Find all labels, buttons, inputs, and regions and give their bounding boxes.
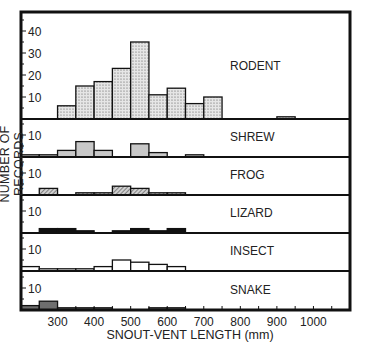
x-tick-label: 1000 [300,315,327,329]
y-tick-label: 40 [28,25,42,39]
y-tick-label: 10 [28,243,42,257]
bar [131,144,149,157]
x-tick-label: 500 [121,315,141,329]
bar [58,106,76,119]
panel-label: SNAKE [230,283,271,297]
plot-frame [21,12,350,310]
y-tick-label: 30 [28,47,42,61]
panels: 10203040RODENT10SHREW10FROG10LIZARD10INS… [21,12,350,310]
y-axis-label: NUMBER OF RECORDS [0,94,26,234]
x-tick-label: 600 [157,315,177,329]
bar [112,68,130,119]
y-tick-label: 10 [28,129,42,143]
panel-lizard: 10LIZARD [21,200,350,233]
panel-rodent: 10203040RODENT [21,20,350,119]
panel-label: FROG [230,168,265,182]
bar [167,88,185,119]
bar [112,260,130,271]
bar [186,104,204,119]
y-tick-label: 10 [28,167,42,181]
panel-label: RODENT [230,59,281,73]
y-tick-label: 10 [28,282,42,296]
y-tick-label: 10 [28,91,42,105]
bar [94,82,112,119]
x-tick-label: 700 [194,315,214,329]
chart-figure: 10203040RODENT10SHREW10FROG10LIZARD10INS… [0,0,370,357]
panel-shrew: 10SHREW [21,124,350,157]
bar [149,95,167,119]
panel-label: LIZARD [230,206,273,220]
bar [131,42,149,119]
x-tick-label: 300 [48,315,68,329]
bar [76,142,94,157]
x-axis-label: SNOUT-VENT LENGTH (mm) [80,328,300,342]
y-tick-label: 10 [28,205,42,219]
x-tick-label: 900 [267,315,287,329]
panel-label: SHREW [230,130,275,144]
panel-snake: 10SNAKE [21,277,350,310]
panel-label: INSECT [230,244,275,258]
panel-insect: 10INSECT [21,238,350,271]
x-tick-label: 400 [84,315,104,329]
panel-frog: 10FROG [21,162,350,195]
x-tick-label: 800 [230,315,250,329]
bar [131,262,149,271]
bar [204,97,222,119]
y-tick-label: 20 [28,69,42,83]
bar [76,86,94,119]
bar [112,186,130,195]
